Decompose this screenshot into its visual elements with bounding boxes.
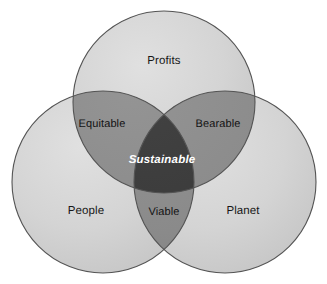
venn-diagram: Profits People Planet Equitable Bearable… (0, 0, 327, 284)
venn-diagram-canvas (0, 0, 327, 284)
